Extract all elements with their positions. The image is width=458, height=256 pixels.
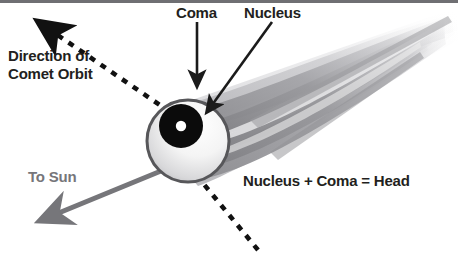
label-direction-line1: Direction of [8, 47, 92, 65]
label-coma: Coma [176, 4, 217, 22]
label-direction-line2: Comet Orbit [8, 65, 92, 83]
label-to-sun: To Sun [28, 168, 77, 186]
comet-head [147, 100, 229, 182]
comet-illustration [0, 0, 458, 256]
comet-diagram: Direction of Comet Orbit Coma Nucleus To… [0, 0, 458, 256]
label-direction-of-comet-orbit: Direction of Comet Orbit [8, 47, 92, 83]
label-nucleus: Nucleus [244, 4, 301, 22]
comet-tail [188, 8, 458, 186]
label-head-equation: Nucleus + Coma = Head [243, 172, 410, 190]
nucleus-core [176, 121, 186, 131]
